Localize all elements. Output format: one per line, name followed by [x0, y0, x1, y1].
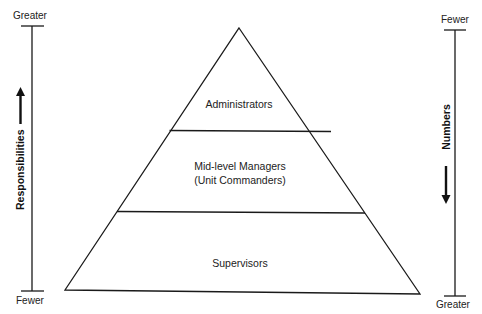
tier-label: Supervisors — [212, 257, 267, 269]
right-axis-title: Numbers — [440, 97, 452, 157]
tier-label-line-1: Mid-level Managers — [170, 159, 310, 173]
tier-administrators: Administrators — [189, 97, 289, 111]
left-axis-top-label: Greater — [13, 10, 47, 21]
right-axis-bottom-label: Greater — [436, 299, 470, 310]
tier-label: Administrators — [205, 98, 272, 110]
pyramid-diagram: Greater Fewer Responsibilities Fewer Gre… — [0, 0, 482, 314]
tier-supervisors: Supervisors — [190, 256, 290, 270]
arrow-up-icon — [16, 87, 25, 124]
left-axis-title: Responsibilities — [14, 130, 26, 210]
tier-divider-2 — [117, 212, 365, 214]
tier-label-line-2: (Unit Commanders) — [170, 173, 310, 187]
right-axis-top-label: Fewer — [441, 14, 469, 25]
tier-mid-level-managers: Mid-level Managers (Unit Commanders) — [170, 159, 310, 187]
arrow-down-icon — [442, 166, 451, 204]
tier-divider-1 — [170, 131, 332, 132]
right-axis — [444, 30, 466, 296]
left-axis-bottom-label: Fewer — [16, 295, 44, 306]
